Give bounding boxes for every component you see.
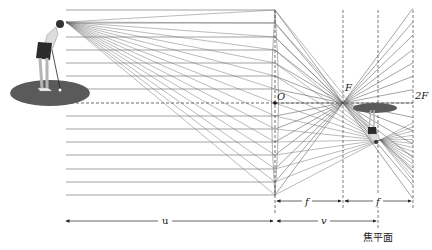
light-rays (66, 8, 413, 198)
object-distance-label: u (162, 215, 169, 226)
optical-center-label: O (277, 91, 285, 102)
putting-green (10, 80, 90, 106)
focal-point-label: F (344, 82, 353, 93)
focal-plane-label: 焦平面 (363, 231, 393, 243)
double-focal-label: 2F (414, 90, 429, 101)
image-distance-label: v (321, 215, 327, 226)
lens-ray-diagram: O F 2F f f u v 焦平面 (0, 0, 432, 250)
